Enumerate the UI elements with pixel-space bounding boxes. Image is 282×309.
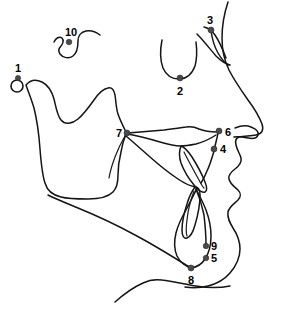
landmark-10[interactable]: 10	[65, 26, 77, 45]
landmark-2-label: 2	[177, 85, 183, 97]
mandible-outline-path	[26, 80, 126, 199]
landmark-7-dot	[124, 130, 130, 136]
landmark-3-label: 3	[207, 14, 213, 26]
maxillary-alveolus-path	[201, 133, 218, 183]
landmark-10-dot	[66, 39, 72, 45]
upper-incisor-inner-path	[184, 152, 204, 188]
landmark-6-label: 6	[225, 126, 231, 138]
hard-palate-upper-path	[128, 127, 217, 133]
landmark-3[interactable]: 3	[207, 14, 214, 33]
landmark-7-label: 7	[116, 127, 122, 139]
landmark-4-label: 4	[220, 143, 227, 155]
lower-incisor-path	[182, 187, 200, 238]
landmark-6[interactable]: 6	[216, 126, 231, 138]
landmark-2[interactable]: 2	[177, 75, 183, 97]
orbit-floor-path	[161, 40, 197, 79]
landmark-8-label: 8	[188, 274, 194, 286]
landmark-5-label: 5	[211, 252, 217, 264]
landmark-9-dot	[203, 243, 209, 249]
landmark-5[interactable]: 5	[203, 252, 217, 264]
landmark-3-dot	[208, 27, 214, 33]
landmark-1[interactable]: 1	[11, 62, 23, 92]
landmark-10-label: 10	[65, 26, 77, 38]
landmark-5-dot	[203, 255, 209, 261]
landmark-8-dot	[188, 265, 194, 271]
landmark-9-label: 9	[211, 240, 217, 252]
landmark-1-dot	[15, 75, 20, 80]
mandible-lower-border-path	[48, 195, 191, 268]
landmark-1-ring	[11, 80, 23, 92]
landmark-1-label: 1	[15, 62, 21, 74]
landmark-4-dot	[211, 146, 217, 152]
posterior-maxilla-path	[126, 136, 195, 187]
hard-palate-lower-path	[128, 134, 216, 146]
landmark-8[interactable]: 8	[188, 265, 194, 286]
cephalometric-tracing-canvas: 1 2 3 4 5	[0, 0, 282, 309]
neck-submental-path	[115, 280, 230, 302]
landmark-6-dot	[216, 128, 222, 134]
cephalometric-tracing-figure: 1 2 3 4 5	[0, 0, 282, 309]
landmark-2-dot	[177, 75, 183, 81]
